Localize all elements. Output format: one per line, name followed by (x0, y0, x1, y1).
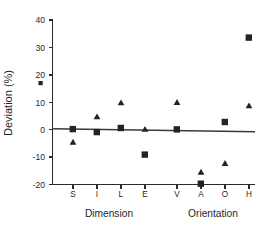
x-axis: S I L E V A O H Dimension Orientation (53, 185, 256, 220)
x-tick-label-v: V (174, 190, 180, 199)
data-point-square-o (222, 119, 228, 125)
data-point-triangle-v (174, 99, 181, 105)
y-tick-label-0: 0 (40, 125, 45, 135)
stray-square-marker (39, 81, 43, 85)
y-axis-title: Deviation (%) (2, 70, 14, 136)
series-triangle-markers (70, 99, 253, 175)
x-axis-group-labels: Dimension Orientation (85, 208, 238, 219)
y-tick-label-30: 30 (35, 43, 45, 53)
group-label-orientation: Orientation (188, 208, 238, 219)
x-tick-label-h: H (246, 190, 252, 199)
x-axis-ticks (73, 185, 249, 189)
chart-figure: Deviation (%) 40 30 20 10 0 -10 -20 (0, 0, 264, 231)
y-axis-tick-labels: 40 30 20 10 0 -10 -20 (33, 15, 46, 190)
data-point-triangle-h (246, 102, 253, 108)
x-tick-label-l: L (119, 190, 124, 199)
y-tick-label-40: 40 (35, 15, 45, 25)
data-point-square-e (142, 151, 148, 157)
data-point-square-l (118, 125, 124, 131)
x-axis-tick-labels: S I L E V A O H (70, 190, 252, 199)
y-tick-label-10: 10 (35, 98, 45, 108)
data-point-triangle-a (198, 169, 205, 175)
y-axis: 40 30 20 10 0 -10 -20 (33, 15, 53, 190)
data-point-square-s (70, 126, 76, 132)
x-tick-label-o: O (222, 190, 229, 199)
trend-line-group (53, 129, 256, 132)
data-point-square-h (246, 34, 252, 40)
x-tick-label-e: E (142, 190, 148, 199)
deviation-scatter-chart: Deviation (%) 40 30 20 10 0 -10 -20 (0, 0, 264, 231)
data-point-square-a (198, 181, 204, 187)
data-point-triangle-l (118, 99, 125, 105)
x-tick-label-i: I (96, 190, 98, 199)
y-tick-label-20: 20 (35, 70, 45, 80)
data-point-triangle-i (94, 113, 101, 119)
x-tick-label-a: A (198, 190, 204, 199)
regression-line (53, 129, 256, 132)
data-point-square-i (94, 129, 100, 135)
y-tick-label-neg10: -10 (33, 152, 46, 162)
data-point-triangle-s (70, 139, 77, 145)
data-point-triangle-e (142, 126, 149, 132)
x-tick-label-s: S (70, 190, 76, 199)
y-tick-label-neg20: -20 (33, 180, 46, 190)
y-axis-title-group: Deviation (%) (2, 70, 14, 136)
data-point-triangle-o (222, 160, 229, 166)
stray-marker-group (39, 81, 43, 85)
group-label-dimension: Dimension (85, 208, 133, 219)
y-axis-ticks (49, 20, 53, 185)
data-point-square-v (174, 126, 180, 132)
